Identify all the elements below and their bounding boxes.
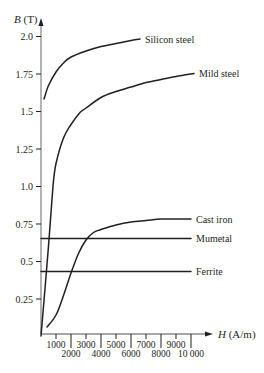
x-axis-unit: (A/m) — [226, 328, 256, 341]
curves — [41, 39, 194, 336]
y-tick-label: 0.25 — [16, 294, 34, 305]
label-mumetal: Mumetal — [196, 233, 232, 244]
x-axis-label: H (A/m) — [217, 328, 256, 341]
label-mild-steel: Mild steel — [199, 68, 239, 79]
y-tick-label: 2.0 — [21, 31, 34, 42]
label-ferrite: Ferrite — [196, 266, 223, 277]
x-tick-label: 4000 — [92, 349, 111, 359]
y-tick-label: 1.25 — [16, 144, 34, 155]
curve-silicon-steel — [44, 39, 140, 99]
x-axis-arrow-icon — [205, 332, 213, 337]
y-axis-arrow-icon — [39, 18, 44, 26]
x-tick-label: 8000 — [152, 349, 171, 359]
y-tick-label: 0.75 — [16, 219, 34, 230]
label-silicon-steel: Silicon steel — [145, 34, 194, 45]
y-tick-label: 1.5 — [21, 106, 34, 117]
y-axis-unit: (T) — [21, 13, 38, 26]
bh-curve-chart: 0.250.50.751.01.251.51.752.0100020003000… — [0, 0, 264, 373]
curve-mild-steel — [41, 74, 194, 337]
curve-labels: Silicon steelMild steelCast ironMumetalF… — [145, 34, 239, 278]
curve-cast-iron — [47, 219, 191, 327]
y-tick-label: 1.0 — [21, 181, 34, 192]
x-tick-label: 2000 — [62, 349, 81, 359]
y-axis-label: B (T) — [14, 13, 38, 26]
label-cast-iron: Cast iron — [196, 214, 232, 225]
axes: 0.250.50.751.01.251.51.752.0100020003000… — [14, 13, 256, 359]
x-tick-label: 6000 — [122, 349, 141, 359]
x-tick-label: 10 000 — [178, 349, 204, 359]
y-tick-label: 0.5 — [21, 256, 34, 267]
y-tick-label: 1.75 — [16, 69, 34, 80]
